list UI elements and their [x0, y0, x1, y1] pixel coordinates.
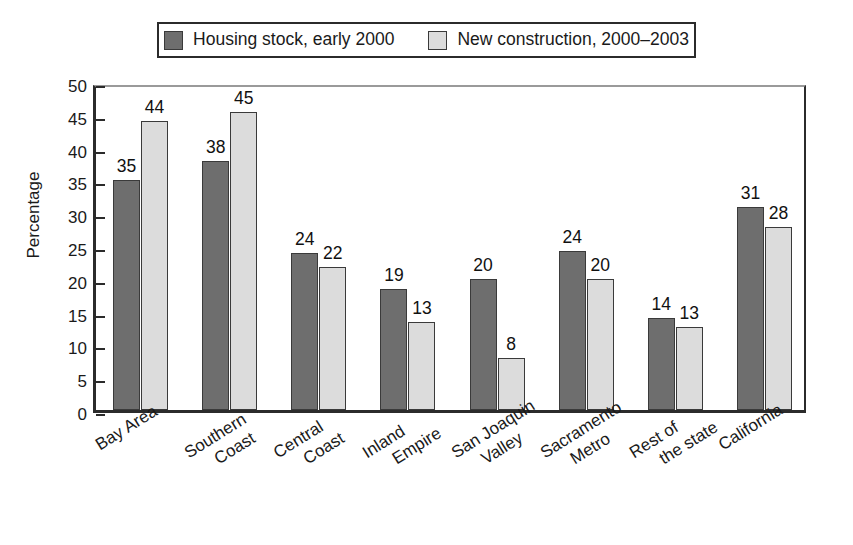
bar [319, 267, 346, 410]
chart-legend: Housing stock, early 2000 New constructi… [157, 22, 696, 58]
bar [737, 207, 764, 410]
bar-value-label: 22 [303, 243, 363, 264]
legend-entry-housing-stock: Housing stock, early 2000 [164, 31, 394, 50]
bar [408, 322, 435, 410]
bar-chart: Housing stock, early 2000 New constructi… [0, 0, 853, 545]
y-axis-tick-label: 25 [68, 241, 87, 261]
y-axis-tick-label: 35 [68, 175, 87, 195]
x-axis-label: SouthernCoast [181, 409, 261, 481]
legend-swatch-new-construction [428, 31, 447, 50]
y-axis-tick-label: 50 [68, 77, 87, 97]
bar [587, 279, 614, 410]
y-axis-tick-label: 40 [68, 143, 87, 163]
bar-group: 3128 [720, 87, 809, 410]
bar [676, 327, 703, 410]
bar-group: 1913 [363, 87, 452, 410]
bar-value-label: 31 [720, 183, 780, 204]
bar-value-label: 13 [392, 298, 452, 319]
plot-area: 05101520253035404550 3544384524221913208… [93, 85, 806, 413]
bar [291, 253, 318, 410]
x-axis-labels: Bay AreaSouthernCoastCentralCoastInlandE… [0, 416, 853, 536]
y-axis-tick-label: 30 [68, 208, 87, 228]
bar-value-label: 45 [214, 88, 274, 109]
bar-value-label: 28 [748, 203, 808, 224]
bar-value-label: 20 [570, 255, 630, 276]
y-axis-tick-label: 45 [68, 110, 87, 130]
legend-swatch-housing-stock [164, 31, 183, 50]
legend-label-housing-stock: Housing stock, early 2000 [193, 31, 394, 49]
y-axis-title: Percentage [24, 155, 44, 275]
y-axis-tick-label: 15 [68, 307, 87, 327]
bar-group: 208 [453, 87, 542, 410]
bar-value-label: 13 [659, 303, 719, 324]
bar-group: 3845 [185, 87, 274, 410]
bar-group: 1413 [631, 87, 720, 410]
x-axis-label: CentralCoast [270, 411, 348, 481]
bar-value-label: 19 [364, 265, 424, 286]
bar [202, 161, 229, 410]
bar [230, 112, 257, 410]
x-axis-label: InlandEmpire [359, 406, 445, 481]
bar-value-label: 20 [453, 255, 513, 276]
bar [765, 227, 792, 410]
bar-value-label: 8 [481, 334, 541, 355]
bar [648, 318, 675, 410]
bar-group: 2420 [542, 87, 631, 410]
bar-value-label: 44 [125, 97, 185, 118]
legend-entry-new-construction: New construction, 2000–2003 [428, 31, 689, 50]
legend-label-new-construction: New construction, 2000–2003 [457, 31, 689, 49]
y-axis-tick-label: 20 [68, 274, 87, 294]
y-axis-tick-label: 5 [78, 372, 87, 392]
bar [113, 180, 140, 410]
bar-group: 2422 [274, 87, 363, 410]
y-axis-tick-label: 10 [68, 339, 87, 359]
bar-value-label: 24 [542, 227, 602, 248]
bar [141, 121, 168, 410]
bars-layer: 3544384524221913208242014133128 [96, 87, 804, 410]
bar-group: 3544 [96, 87, 185, 410]
